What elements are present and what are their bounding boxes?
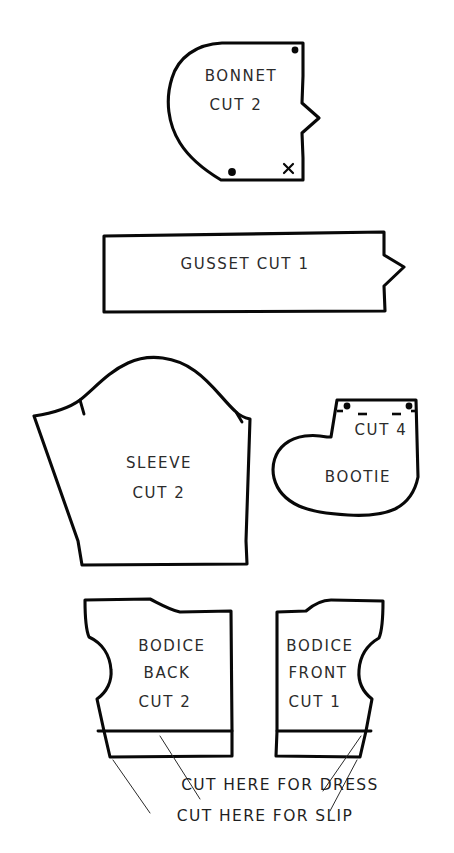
bootie-label-line2: BOOTIE xyxy=(325,468,391,486)
bootie-dot-right xyxy=(406,403,413,410)
bonnet-label-line1: BONNET xyxy=(205,67,278,85)
bodice-back-slip-leader xyxy=(113,760,150,813)
pattern-sheet: BONNET CUT 2 GUSSET CUT 1 SLEEVE CUT 2 C… xyxy=(0,0,454,853)
bootie-label-line1: CUT 4 xyxy=(355,421,408,439)
bodice-back-label-line3: CUT 2 xyxy=(139,693,192,711)
bootie-dot-left xyxy=(344,403,351,410)
caption-cut-here-for-slip: CUT HERE FOR SLIP xyxy=(177,807,354,825)
bodice-back-label-line2: BACK xyxy=(144,664,191,682)
pattern-piece-sleeve: SLEEVE CUT 2 xyxy=(34,357,250,565)
bonnet-label-line2: CUT 2 xyxy=(210,96,263,114)
bodice-front-label-line1: BODICE xyxy=(286,637,353,655)
caption-cut-here-for-dress: CUT HERE FOR DRESS xyxy=(181,776,379,794)
bodice-back-label-line1: BODICE xyxy=(138,637,205,655)
gusset-label-line1: GUSSET CUT 1 xyxy=(180,255,309,273)
bootie-outline xyxy=(273,400,418,515)
sleeve-label-line1: SLEEVE xyxy=(126,454,192,472)
bonnet-dot-top xyxy=(292,47,299,54)
bonnet-dot-bottom xyxy=(228,168,236,176)
bodice-front-label-line2: FRONT xyxy=(288,664,347,682)
pattern-piece-bonnet: BONNET CUT 2 xyxy=(168,43,319,180)
sleeve-label-line2: CUT 2 xyxy=(133,484,186,502)
pattern-piece-bootie: CUT 4 BOOTIE xyxy=(273,400,418,515)
pattern-piece-gusset: GUSSET CUT 1 xyxy=(104,232,404,312)
bodice-front-label-line3: CUT 1 xyxy=(289,693,342,711)
